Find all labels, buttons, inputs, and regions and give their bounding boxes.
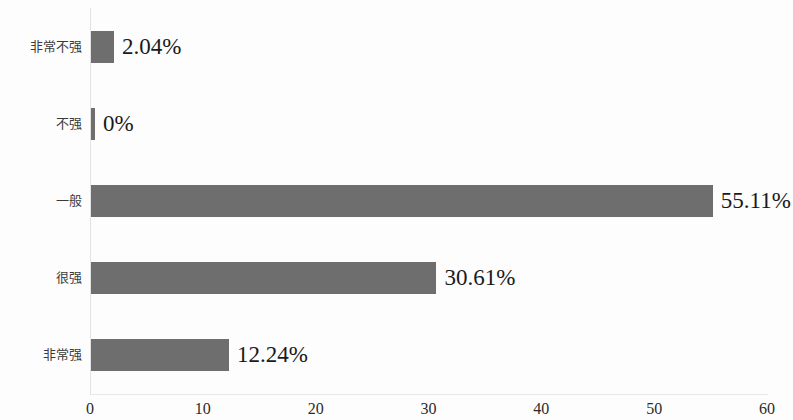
bar	[91, 339, 229, 371]
x-tick-label: 10	[195, 400, 211, 418]
bar-chart: 非常不强2.04%不强0%一般55.11%很强30.61%非常强12.24% 0…	[0, 0, 793, 420]
bar	[91, 185, 713, 217]
bar	[91, 108, 95, 140]
bar-value-label: 30.61%	[444, 262, 515, 294]
bar-row: 非常不强2.04%	[0, 8, 793, 85]
category-label: 一般	[0, 194, 82, 207]
bar-row: 非常强12.24%	[0, 317, 793, 394]
bar-value-label: 2.04%	[122, 31, 181, 63]
bar	[91, 262, 436, 294]
x-tick-label: 50	[646, 400, 662, 418]
bar-row: 一般55.11%	[0, 162, 793, 239]
x-tick-label: 0	[86, 400, 94, 418]
bar-row: 不强0%	[0, 85, 793, 162]
x-axis-line	[90, 394, 768, 395]
bar	[91, 31, 114, 63]
category-label: 非常不强	[0, 40, 82, 53]
x-tick-label: 40	[533, 400, 549, 418]
category-label: 非常强	[0, 348, 82, 361]
x-tick-label: 30	[421, 400, 437, 418]
category-label: 不强	[0, 117, 82, 130]
bar-row: 很强30.61%	[0, 240, 793, 317]
x-tick-label: 60	[759, 400, 775, 418]
bar-value-label: 55.11%	[721, 185, 791, 217]
x-tick-label: 20	[308, 400, 324, 418]
bar-value-label: 12.24%	[237, 339, 308, 371]
bar-value-label: 0%	[103, 108, 134, 140]
category-label: 很强	[0, 271, 82, 284]
